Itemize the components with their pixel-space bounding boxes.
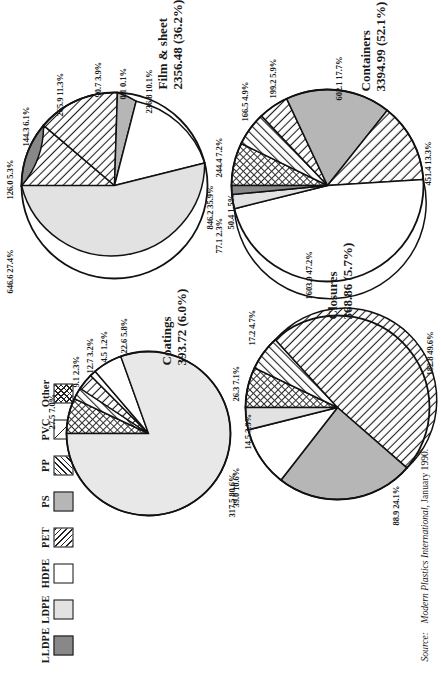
source-note: Source: Modern Plastics International, J… xyxy=(418,448,429,661)
slice-label-containers-ps: 602.117.7% xyxy=(333,56,343,100)
slice-label-containers-pvc: 451.413.3% xyxy=(422,141,432,185)
source-rest: , January 1990. xyxy=(418,448,429,507)
legend-swatch-pet xyxy=(53,527,73,547)
slice-label-coatings-pet: 9.12.3% xyxy=(70,356,80,387)
slice-label-closures-pp: 182.849.6% xyxy=(424,331,434,375)
slice-label-coatings-hdpe: 22.65.8% xyxy=(118,317,128,353)
slice-label-film-ps: 90.73.9% xyxy=(92,61,102,97)
legend-swatch-ldpe xyxy=(53,599,73,619)
slice-label-film-pvc: 0.10.1% xyxy=(117,68,127,99)
slice-label-closures-ps: 88.924.1% xyxy=(390,485,400,525)
slice-label-film-other: 126.05.3% xyxy=(4,159,14,199)
slice-label-film-lldpe: 646.627.4% xyxy=(4,249,14,293)
pie-svg-coatings xyxy=(40,275,240,525)
legend-label-ldpe: LDPE xyxy=(6,595,50,623)
legend-label-lldpe: LLDPE xyxy=(6,627,50,663)
source-publication: Modern Plastics International xyxy=(418,507,429,623)
slice-label-containers-pet: 166.54.9% xyxy=(239,81,249,121)
legend-label-pet: PET xyxy=(6,527,50,548)
pie-title-containers: Containers 3394.99 (52.1%) xyxy=(357,0,388,91)
slice-label-closures-pet: 17.24.7% xyxy=(246,309,256,345)
pie-title-closures: Closures 368.86 (5.7%) xyxy=(324,199,355,319)
slice-label-closures-hdpe: 39.010.6% xyxy=(230,467,240,507)
legend-item-hdpe: HDPE xyxy=(6,555,73,591)
pie-title-film-and-sheet: Film & sheet 2356.48 (36.2%) xyxy=(154,0,185,89)
slice-label-film-pp: 265.911.3% xyxy=(54,72,64,116)
slice-label-film-pet: 144.36.1% xyxy=(20,106,30,146)
legend-item-ldpe: LDPE xyxy=(6,591,73,627)
slice-label-film-hdpe: 236.810.1% xyxy=(143,69,153,113)
legend-swatch-lldpe xyxy=(53,635,73,655)
legend-label-hdpe: HDPE xyxy=(6,558,50,588)
slice-label-film-ldpe: 846.235.9% xyxy=(204,185,214,229)
slice-label-containers-ldpe: 77.12.3% xyxy=(213,217,223,253)
legend-item-lldpe: LLDPE xyxy=(6,627,73,663)
legend-swatch-hdpe xyxy=(53,563,73,583)
slice-label-coatings-other: 27.57.0% xyxy=(46,393,56,429)
pie-chart-coatings: 27.57.0% 9.12.3% 12.73.2% 4.51.2% 22.65.… xyxy=(40,275,240,525)
slice-label-closures-other: 26.37.1% xyxy=(230,365,240,401)
slice-label-containers-pp: 199.25.9% xyxy=(267,58,277,98)
slice-label-containers-lldpe: 50.41.5% xyxy=(225,193,235,229)
pie-title-coatings: Coatings 393.72 (6.0%) xyxy=(158,255,189,365)
pie-chart-closures: 39.010.6% 14.53.9% 26.37.1% 17.24.7% 182… xyxy=(232,255,437,525)
slice-label-coatings-pvc: 4.51.2% xyxy=(98,331,108,362)
plastics-packaging-pie-figure: LLDPE LDPE HDPE PET PS PP PVC Other xyxy=(0,0,441,675)
slice-label-closures-ldpe: 14.53.9% xyxy=(242,413,252,449)
source-prefix: Source: xyxy=(418,632,429,661)
slice-label-coatings-pp: 12.73.2% xyxy=(84,337,94,373)
slice-label-containers-other: 244.47.2% xyxy=(213,137,223,177)
